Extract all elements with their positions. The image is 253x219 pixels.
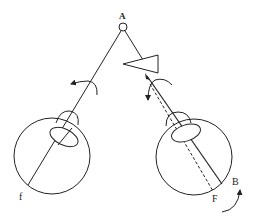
fixation-point-circle <box>119 23 127 31</box>
left-cornea <box>56 111 78 125</box>
left-visual-axis <box>28 31 121 185</box>
prism-icon <box>123 55 158 73</box>
b-rotation-arrow-icon <box>222 190 240 212</box>
label-b: B <box>232 177 239 187</box>
label-f: f <box>19 192 22 202</box>
right-cornea <box>166 112 191 126</box>
eye-diagram: A f F B <box>0 0 253 219</box>
right-visual-axis-upper <box>125 31 143 60</box>
label-F: F <box>212 194 218 204</box>
label-a: A <box>119 12 126 21</box>
diagram-svg <box>0 0 253 219</box>
